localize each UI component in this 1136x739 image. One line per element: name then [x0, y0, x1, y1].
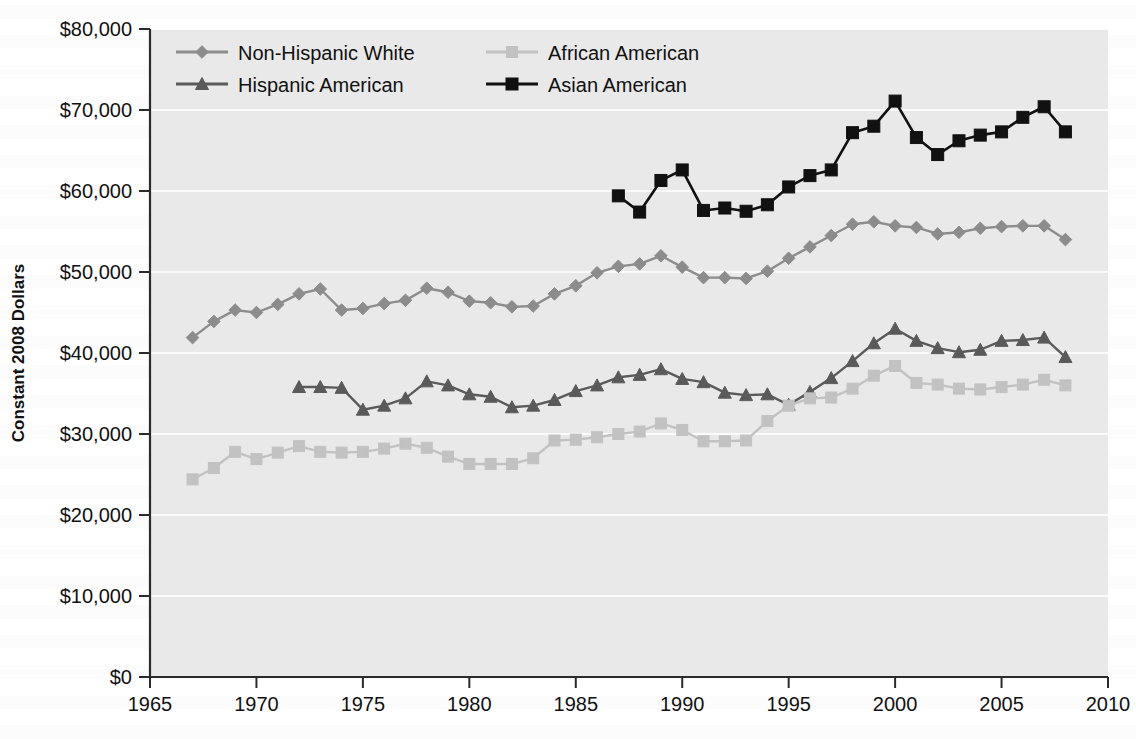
data-point-marker: [804, 393, 815, 404]
data-point-marker: [1059, 126, 1071, 138]
data-point-marker: [868, 120, 880, 132]
data-point-marker: [890, 360, 901, 371]
data-point-marker: [421, 442, 432, 453]
data-point-marker: [485, 458, 496, 469]
y-axis-title: Constant 2008 Dollars: [9, 264, 28, 443]
x-axis: 1965197019751980198519901995200020052010: [128, 677, 1131, 715]
x-tick-label: 1985: [554, 693, 599, 715]
data-point-marker: [719, 202, 731, 214]
data-point-marker: [506, 78, 518, 90]
y-tick-label: $60,000: [60, 180, 132, 202]
x-tick-label: 1970: [234, 693, 279, 715]
legend-label: Asian American: [548, 74, 687, 96]
data-point-marker: [612, 190, 624, 202]
data-point-marker: [570, 434, 581, 445]
data-point-marker: [847, 383, 858, 394]
data-point-marker: [1060, 380, 1071, 391]
data-point-marker: [1017, 111, 1029, 123]
data-point-marker: [868, 370, 879, 381]
data-point-marker: [634, 206, 646, 218]
data-point-marker: [761, 199, 773, 211]
data-point-marker: [741, 435, 752, 446]
data-point-marker: [1017, 379, 1028, 390]
data-point-marker: [655, 174, 667, 186]
income-by-race-line-chart: $0$10,000$20,000$30,000$40,000$50,000$60…: [0, 0, 1136, 739]
data-point-marker: [400, 438, 411, 449]
x-tick-label: 1975: [341, 693, 386, 715]
data-point-marker: [953, 383, 964, 394]
y-tick-label: $50,000: [60, 261, 132, 283]
data-point-marker: [974, 129, 986, 141]
data-point-marker: [740, 205, 752, 217]
data-point-marker: [996, 126, 1008, 138]
data-point-marker: [762, 416, 773, 427]
data-point-marker: [272, 447, 283, 458]
x-tick-label: 2010: [1086, 693, 1131, 715]
data-point-marker: [464, 458, 475, 469]
data-point-marker: [315, 446, 326, 457]
legend-label: Non-Hispanic White: [238, 42, 415, 64]
data-point-marker: [826, 392, 837, 403]
x-tick-label: 2005: [979, 693, 1024, 715]
data-point-marker: [975, 384, 986, 395]
y-tick-label: $10,000: [60, 585, 132, 607]
data-point-marker: [251, 454, 262, 465]
data-point-marker: [549, 435, 560, 446]
data-point-marker: [613, 429, 624, 440]
data-point-marker: [889, 95, 901, 107]
y-tick-label: $70,000: [60, 99, 132, 121]
data-point-marker: [1038, 101, 1050, 113]
x-tick-label: 2000: [873, 693, 918, 715]
x-tick-label: 1980: [447, 693, 492, 715]
y-tick-label: $80,000: [60, 18, 132, 40]
data-point-marker: [825, 164, 837, 176]
data-point-marker: [187, 474, 198, 485]
y-tick-label: $0: [110, 666, 132, 688]
data-point-marker: [230, 446, 241, 457]
data-point-marker: [357, 446, 368, 457]
data-point-marker: [932, 149, 944, 161]
data-point-marker: [996, 382, 1007, 393]
data-point-marker: [507, 47, 518, 58]
data-point-marker: [634, 426, 645, 437]
data-point-marker: [208, 463, 219, 474]
data-point-marker: [677, 424, 688, 435]
x-tick-label: 1995: [766, 693, 811, 715]
data-point-marker: [719, 436, 730, 447]
data-point-marker: [847, 127, 859, 139]
data-point-marker: [294, 441, 305, 452]
chart-canvas: $0$10,000$20,000$30,000$40,000$50,000$60…: [0, 0, 1136, 739]
data-point-marker: [698, 204, 710, 216]
data-point-marker: [1039, 374, 1050, 385]
data-point-marker: [676, 164, 688, 176]
y-tick-label: $20,000: [60, 504, 132, 526]
data-point-marker: [379, 443, 390, 454]
legend-label: African American: [548, 42, 699, 64]
y-tick-label: $40,000: [60, 342, 132, 364]
y-tick-label: $30,000: [60, 423, 132, 445]
data-point-marker: [783, 181, 795, 193]
data-point-marker: [655, 418, 666, 429]
y-axis: $0$10,000$20,000$30,000$40,000$50,000$60…: [60, 18, 150, 688]
x-tick-label: 1990: [660, 693, 705, 715]
data-point-marker: [804, 170, 816, 182]
data-point-marker: [910, 132, 922, 144]
data-point-marker: [336, 447, 347, 458]
data-point-marker: [528, 453, 539, 464]
data-point-marker: [953, 135, 965, 147]
x-tick-label: 1965: [128, 693, 173, 715]
data-point-marker: [932, 379, 943, 390]
data-point-marker: [911, 377, 922, 388]
data-point-marker: [506, 458, 517, 469]
legend-label: Hispanic American: [238, 74, 404, 96]
data-point-marker: [783, 400, 794, 411]
data-point-marker: [698, 436, 709, 447]
data-point-marker: [443, 451, 454, 462]
data-point-marker: [592, 432, 603, 443]
